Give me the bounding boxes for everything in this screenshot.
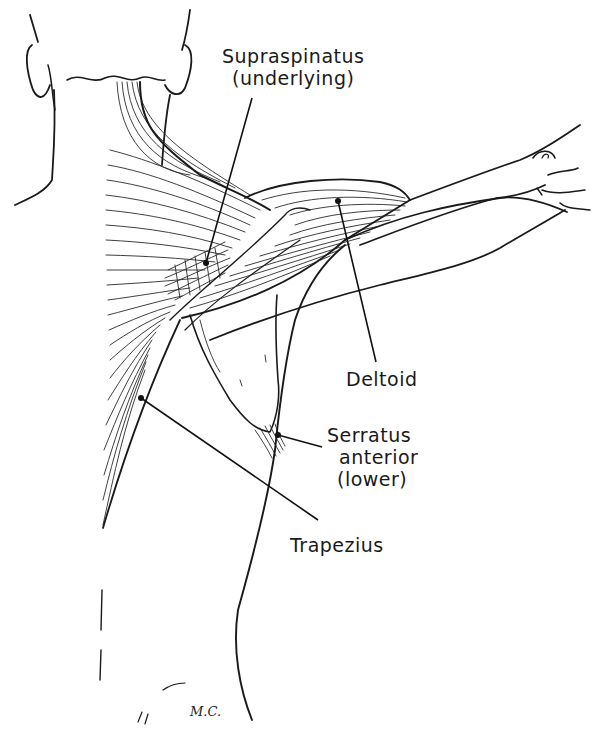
label-supraspinatus: Supraspinatus (underlying) xyxy=(222,45,364,89)
scapula-outline xyxy=(190,295,279,432)
trapezius-pointer xyxy=(138,395,144,401)
head-and-neck-outline xyxy=(15,10,191,205)
label-deltoid-line1: Deltoid xyxy=(346,368,418,390)
label-supraspinatus-line1: Supraspinatus xyxy=(222,45,364,67)
artist-signature: M.C. xyxy=(190,704,221,719)
label-serratus-line1: Serratus xyxy=(327,424,418,446)
label-serratus-line2: anterior xyxy=(327,446,418,468)
label-serratus-anterior: Serratus anterior (lower) xyxy=(327,424,418,490)
trapezius-leader xyxy=(141,398,318,520)
anatomy-illustration: Supraspinatus (underlying) Deltoid Serra… xyxy=(0,0,605,732)
label-deltoid: Deltoid xyxy=(346,368,418,390)
serratus-pointer xyxy=(275,432,281,438)
label-trapezius: Trapezius xyxy=(290,534,384,556)
supraspinatus-pointer xyxy=(203,260,209,266)
label-supraspinatus-line2: (underlying) xyxy=(222,67,364,89)
label-serratus-line3: (lower) xyxy=(327,468,418,490)
label-trapezius-line1: Trapezius xyxy=(290,534,384,556)
deltoid-pointer xyxy=(335,198,341,204)
torso-outline xyxy=(100,245,345,724)
